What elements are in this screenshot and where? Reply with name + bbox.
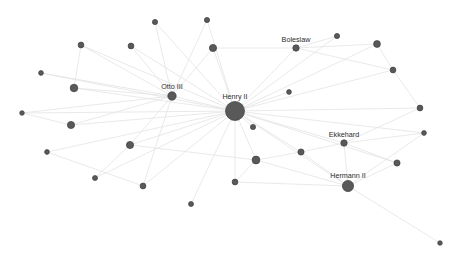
graph-edge xyxy=(235,44,377,111)
graph-node[interactable] xyxy=(189,202,194,207)
graph-edge xyxy=(377,44,393,70)
node-label-henry-ii: Henry II xyxy=(222,92,247,101)
graph-node[interactable] xyxy=(78,42,84,48)
graph-node[interactable] xyxy=(204,17,209,22)
graph-node[interactable] xyxy=(287,90,292,95)
graph-node[interactable] xyxy=(39,71,44,76)
edge-layer xyxy=(22,20,440,243)
graph-node[interactable] xyxy=(250,124,255,129)
graph-edge xyxy=(143,96,172,186)
graph-node[interactable] xyxy=(394,160,400,166)
graph-node[interactable] xyxy=(126,141,133,148)
graph-node-henry-ii[interactable] xyxy=(226,102,245,121)
graph-edge xyxy=(393,70,420,108)
graph-node-ekkehard[interactable] xyxy=(341,140,347,146)
graph-edge xyxy=(74,45,81,88)
graph-node-hermann-ii[interactable] xyxy=(342,180,353,191)
graph-edge xyxy=(131,46,235,111)
graph-node[interactable] xyxy=(438,241,443,246)
graph-node[interactable] xyxy=(45,150,50,155)
graph-edge xyxy=(235,108,420,111)
graph-edge xyxy=(22,111,235,113)
graph-node[interactable] xyxy=(422,131,427,136)
graph-edge xyxy=(344,143,397,163)
node-label-ekkehard: Ekkehard xyxy=(329,130,359,139)
graph-node[interactable] xyxy=(20,111,25,116)
network-graph-svg[interactable]: Henry IIOtto IIIBoleslawEkkehardHermann … xyxy=(0,0,451,260)
graph-edge xyxy=(22,96,172,113)
node-label-otto-iii: Otto III xyxy=(161,82,183,91)
graph-node[interactable] xyxy=(209,44,216,51)
graph-edge xyxy=(213,48,235,111)
graph-edge xyxy=(191,111,235,204)
node-label-hermann-ii: Hermann II xyxy=(330,171,366,180)
graph-edge xyxy=(47,152,143,186)
graph-edge xyxy=(22,113,71,125)
graph-node[interactable] xyxy=(70,84,78,92)
graph-edge xyxy=(235,182,348,186)
graph-node[interactable] xyxy=(232,179,238,185)
graph-node[interactable] xyxy=(374,41,381,48)
graph-node-boleslaw[interactable] xyxy=(293,45,299,51)
graph-edge xyxy=(81,45,235,111)
graph-node[interactable] xyxy=(93,176,98,181)
graph-edge xyxy=(130,96,172,145)
node-label-boleslaw: Boleslaw xyxy=(282,35,312,44)
node-layer[interactable] xyxy=(20,17,443,245)
graph-edge xyxy=(235,70,393,111)
graph-edge xyxy=(235,36,337,111)
graph-edge xyxy=(130,111,235,145)
graph-node[interactable] xyxy=(128,43,134,49)
graph-edge xyxy=(235,48,296,111)
graph-edge xyxy=(296,48,393,70)
graph-node-otto-iii[interactable] xyxy=(168,92,176,100)
graph-node[interactable] xyxy=(334,33,339,38)
graph-edge xyxy=(74,88,235,111)
graph-edge xyxy=(95,145,130,178)
graph-edge xyxy=(235,160,256,182)
graph-node[interactable] xyxy=(390,67,396,73)
graph-edge xyxy=(301,143,344,152)
graph-node[interactable] xyxy=(152,19,157,24)
graph-edge xyxy=(235,111,397,163)
graph-node[interactable] xyxy=(67,121,74,128)
graph-edge xyxy=(256,152,301,160)
graph-edge xyxy=(348,186,440,243)
graph-node[interactable] xyxy=(417,105,423,111)
graph-edge xyxy=(47,111,235,152)
graph-edge xyxy=(301,152,348,186)
graph-node[interactable] xyxy=(298,149,304,155)
network-graph-canvas[interactable]: Henry IIOtto IIIBoleslawEkkehardHermann … xyxy=(0,0,451,260)
graph-node[interactable] xyxy=(140,183,146,189)
graph-node[interactable] xyxy=(252,156,260,164)
